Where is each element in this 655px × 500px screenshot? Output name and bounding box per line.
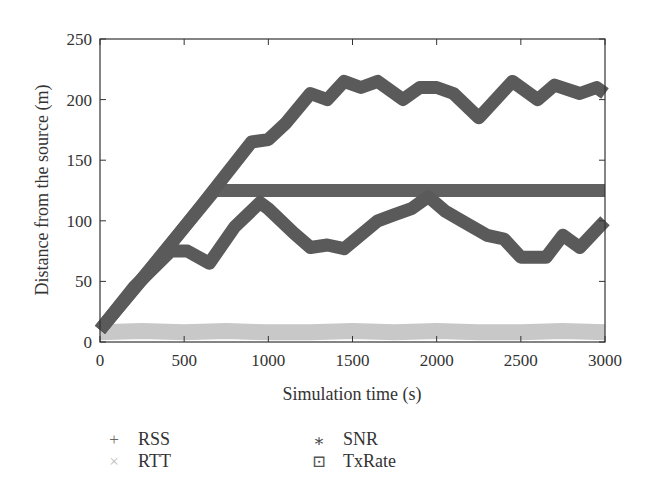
y-tick-label: 150	[67, 151, 93, 170]
legend-item-rtt: × RTT	[104, 451, 171, 472]
plus-marker-icon: +	[104, 430, 124, 450]
x-tick-label: 500	[171, 351, 197, 370]
series-rtt	[100, 331, 605, 332]
cross-marker-icon: ×	[104, 452, 124, 472]
x-axis-label: Simulation time (s)	[283, 384, 422, 405]
legend-label: TxRate	[343, 451, 396, 472]
legend-label: RSS	[138, 429, 170, 450]
x-tick-label: 1000	[251, 351, 285, 370]
legend-item-snr: ⁎ SNR	[309, 429, 378, 450]
square-dot-marker-icon: ⊡	[309, 451, 329, 472]
x-tick-label: 0	[96, 351, 105, 370]
y-tick-label: 100	[67, 212, 93, 231]
y-tick-label: 200	[67, 91, 93, 110]
x-tick-label: 1500	[336, 351, 370, 370]
y-axis-label: Distance from the source (m)	[32, 85, 53, 296]
series-rss	[100, 197, 605, 330]
legend-label: RTT	[138, 451, 171, 472]
legend-item-txrate: ⊡ TxRate	[309, 451, 396, 472]
legend-label: SNR	[343, 429, 378, 450]
x-tick-label: 3000	[588, 351, 622, 370]
series-layer	[100, 81, 605, 332]
y-tick-label: 250	[67, 30, 93, 49]
y-tick-label: 0	[84, 333, 93, 352]
x-tick-label: 2000	[420, 351, 454, 370]
x-tick-label: 2500	[504, 351, 538, 370]
asterisk-marker-icon: ⁎	[309, 429, 329, 450]
chart-canvas: 050010001500200025003000050100150200250 …	[0, 0, 655, 420]
legend-item-rss: + RSS	[104, 429, 170, 450]
series-snr	[100, 81, 605, 330]
legend: + RSS × RTT ⁎ SNR ⊡ TxRate	[104, 429, 524, 479]
y-tick-label: 50	[75, 272, 92, 291]
